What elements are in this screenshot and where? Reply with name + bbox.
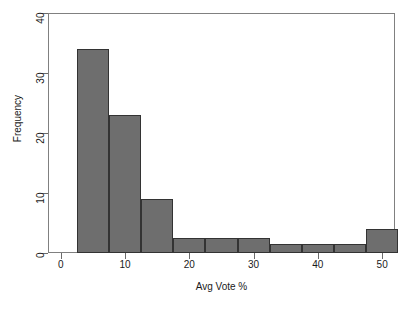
histogram-bar xyxy=(238,238,270,253)
x-axis-tick-label: 40 xyxy=(298,259,338,270)
x-axis-tick-label: 50 xyxy=(362,259,402,270)
bars-layer xyxy=(48,13,395,253)
histogram-bar xyxy=(109,115,141,253)
histogram-bar xyxy=(173,238,205,253)
y-axis-tick-label: 10 xyxy=(35,193,46,217)
x-axis-tick-label: 10 xyxy=(105,259,145,270)
histogram-bar xyxy=(141,199,173,253)
y-axis-tick-label: 20 xyxy=(35,133,46,157)
x-axis-tick-label: 30 xyxy=(234,259,274,270)
y-axis-title: Frequency xyxy=(12,74,23,164)
histogram-bar xyxy=(366,229,398,253)
histogram-bar xyxy=(205,238,237,253)
histogram-bar xyxy=(302,244,334,253)
x-axis-tick-label: 0 xyxy=(41,259,81,270)
y-axis-tick-label: 30 xyxy=(35,73,46,97)
histogram-bar xyxy=(77,49,109,253)
histogram-chart: 010203040 01020304050 Frequency Avg Vote… xyxy=(0,0,409,309)
x-axis-title: Avg Vote % xyxy=(48,281,395,292)
histogram-bar xyxy=(334,244,366,253)
histogram-bar xyxy=(270,244,302,253)
x-axis-tick-label: 20 xyxy=(169,259,209,270)
y-axis-tick-label: 40 xyxy=(35,13,46,37)
